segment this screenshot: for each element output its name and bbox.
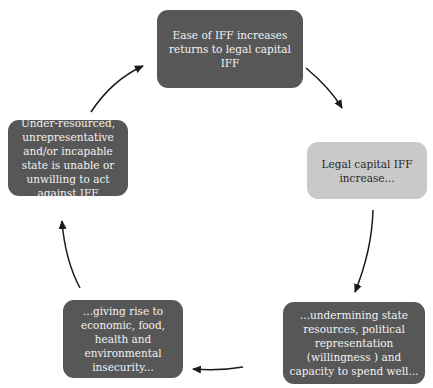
arrow-bottom-left-to-left [62, 221, 80, 288]
node-right-text: Legal capital IFF increase... [313, 157, 421, 185]
node-bottom-right: ...undermining state resources, politica… [283, 302, 425, 384]
node-top-text: Ease of IFF increases returns to legal c… [163, 28, 297, 70]
arrow-bottom-right-to-bottom-left [193, 367, 243, 370]
node-left: Under-resourced, unrepresentative and/or… [8, 120, 128, 196]
node-bottom-left: ...giving rise to economic, food, health… [63, 300, 183, 378]
node-bottom-right-text: ...undermining state resources, politica… [289, 308, 419, 378]
arrow-left-to-top [91, 66, 143, 112]
node-right: Legal capital IFF increase... [307, 142, 427, 199]
node-left-text: Under-resourced, unrepresentative and/or… [14, 116, 122, 200]
node-top: Ease of IFF increases returns to legal c… [157, 10, 303, 88]
node-bottom-left-text: ...giving rise to economic, food, health… [69, 304, 177, 374]
arrow-top-to-right [306, 68, 342, 108]
arrow-right-to-bottom-right [355, 210, 373, 292]
